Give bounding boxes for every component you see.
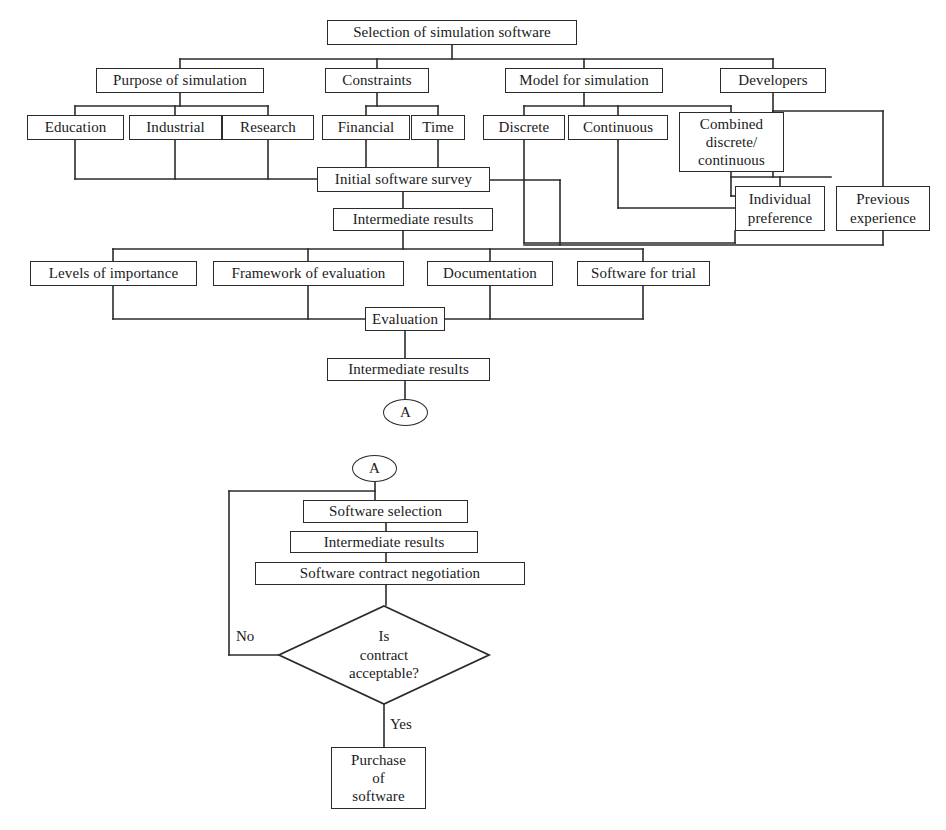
decision-text: Is contract acceptable?: [278, 605, 490, 705]
node-intermediate-results-3: Intermediate results: [290, 531, 478, 553]
node-combined-line-3: continuous: [684, 151, 779, 169]
node-decision-is-contract-acceptable: Is contract acceptable?: [278, 605, 490, 705]
decision-line-3: acceptable?: [349, 664, 419, 683]
node-initial-software-survey: Initial software survey: [317, 167, 490, 192]
decision-line-2: contract: [360, 646, 408, 665]
node-purpose-of-simulation: Purpose of simulation: [96, 68, 264, 93]
node-intermediate-results-3-label: Intermediate results: [324, 534, 445, 551]
node-framework-of-evaluation: Framework of evaluation: [213, 261, 404, 286]
node-developers: Developers: [720, 68, 826, 93]
node-combined-discrete-continuous: Combined discrete/ continuous: [679, 112, 784, 172]
node-model-for-simulation: Model for simulation: [505, 68, 663, 93]
node-education: Education: [27, 115, 124, 140]
node-purpose-of-simulation-label: Purpose of simulation: [113, 72, 247, 89]
node-initial-software-survey-label: Initial software survey: [335, 171, 472, 188]
connector-a-bottom: A: [352, 455, 397, 482]
node-industrial-label: Industrial: [146, 119, 205, 136]
node-financial-label: Financial: [338, 119, 395, 136]
node-time-label: Time: [422, 119, 454, 136]
flowchart-canvas: Selection of simulation software Purpose…: [0, 0, 946, 830]
node-model-for-simulation-label: Model for simulation: [519, 72, 649, 89]
edge-label-no-text: No: [236, 628, 254, 644]
node-continuous: Continuous: [568, 115, 668, 140]
node-individual-preference-line-2: preference: [740, 209, 820, 227]
node-software-for-trial: Software for trial: [577, 261, 710, 286]
connector-a-bottom-label: A: [369, 460, 380, 477]
node-research: Research: [222, 115, 314, 140]
node-combined-line-1: Combined: [684, 115, 779, 133]
node-purchase-of-software: Purchase of software: [331, 747, 426, 809]
node-purchase-line-1: Purchase: [336, 751, 421, 769]
node-continuous-label: Continuous: [583, 119, 653, 136]
node-previous-experience-line-1: Previous: [841, 190, 925, 208]
node-documentation-label: Documentation: [443, 265, 537, 282]
node-evaluation-label: Evaluation: [372, 311, 438, 328]
node-purchase-line-2: of: [336, 769, 421, 787]
node-documentation: Documentation: [427, 261, 553, 286]
connector-a-top: A: [383, 399, 428, 426]
node-purchase-line-3: software: [336, 787, 421, 805]
node-constraints-label: Constraints: [342, 72, 411, 89]
node-financial: Financial: [322, 115, 410, 140]
node-software-selection: Software selection: [303, 500, 468, 523]
node-discrete-label: Discrete: [499, 119, 550, 136]
node-intermediate-results-2-label: Intermediate results: [348, 361, 469, 378]
node-education-label: Education: [45, 119, 107, 136]
edge-label-yes-text: Yes: [390, 716, 412, 732]
node-intermediate-results-2: Intermediate results: [327, 358, 490, 381]
connector-a-top-label: A: [400, 404, 411, 421]
node-software-selection-label: Software selection: [329, 503, 442, 520]
node-intermediate-results-1-label: Intermediate results: [353, 211, 474, 228]
node-levels-of-importance: Levels of importance: [30, 261, 197, 286]
decision-line-1: Is: [379, 627, 390, 646]
node-individual-preference-line-1: Individual: [740, 190, 820, 208]
node-levels-of-importance-label: Levels of importance: [49, 265, 178, 282]
node-previous-experience: Previous experience: [836, 186, 930, 231]
node-constraints: Constraints: [325, 68, 429, 93]
node-industrial: Industrial: [129, 115, 222, 140]
node-software-for-trial-label: Software for trial: [591, 265, 696, 282]
edge-label-yes: Yes: [390, 716, 412, 733]
node-research-label: Research: [240, 119, 296, 136]
node-combined-line-2: discrete/: [684, 133, 779, 151]
node-discrete: Discrete: [483, 115, 565, 140]
node-previous-experience-line-2: experience: [841, 209, 925, 227]
node-developers-label: Developers: [738, 72, 807, 89]
node-framework-of-evaluation-label: Framework of evaluation: [232, 265, 386, 282]
node-root: Selection of simulation software: [327, 20, 577, 45]
node-individual-preference: Individual preference: [735, 186, 825, 231]
node-evaluation: Evaluation: [365, 307, 445, 331]
node-root-label: Selection of simulation software: [353, 24, 551, 41]
edge-label-no: No: [236, 628, 254, 645]
node-software-contract-negotiation-label: Software contract negotiation: [300, 565, 480, 582]
node-software-contract-negotiation: Software contract negotiation: [255, 562, 525, 585]
node-intermediate-results-1: Intermediate results: [333, 208, 493, 231]
node-time: Time: [411, 115, 465, 140]
